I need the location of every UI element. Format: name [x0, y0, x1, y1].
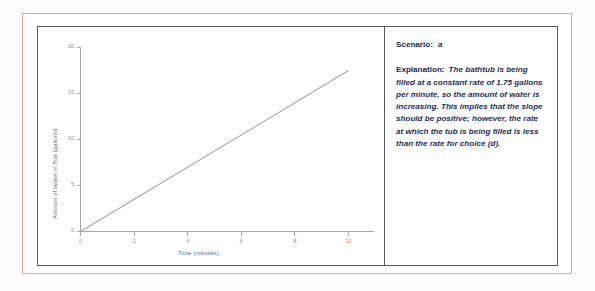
y-tick-label-20: 20 [54, 44, 74, 49]
line-chart-plot [38, 27, 384, 265]
chart-pane: 20 15 10 5 0 0 2 4 6 8 10 Amount of Wate… [38, 27, 384, 265]
y-tick-label-15: 15 [54, 90, 74, 95]
x-axis-title: Time (minutes) [178, 250, 219, 256]
x-tick-label-2: 2 [124, 239, 144, 244]
x-tick-label-6: 6 [231, 239, 251, 244]
scenario-row: Scenario:a [396, 39, 545, 51]
x-tick-label-10: 10 [339, 239, 359, 244]
answer-pane: Scenario:a Explanation:The bathtub is be… [385, 27, 557, 265]
y-tick-label-0: 0 [54, 228, 74, 233]
y-axis-title: Amount of Water in Tub (gallons) [52, 129, 58, 219]
x-tick-label-4: 4 [178, 239, 198, 244]
explanation-row: Explanation:The bathtub is being filled … [396, 64, 545, 150]
screenshot-canvas: 20 15 10 5 0 0 2 4 6 8 10 Amount of Wate… [0, 0, 595, 291]
x-tick-label-0: 0 [71, 239, 91, 244]
explanation-text: The bathtub is being filled at a constan… [396, 65, 543, 148]
scenario-value: a [438, 40, 443, 49]
scenario-label: Scenario: [396, 40, 433, 49]
x-tick-label-8: 8 [285, 239, 305, 244]
explanation-label: Explanation: [396, 65, 445, 74]
data-series-line [81, 71, 349, 232]
